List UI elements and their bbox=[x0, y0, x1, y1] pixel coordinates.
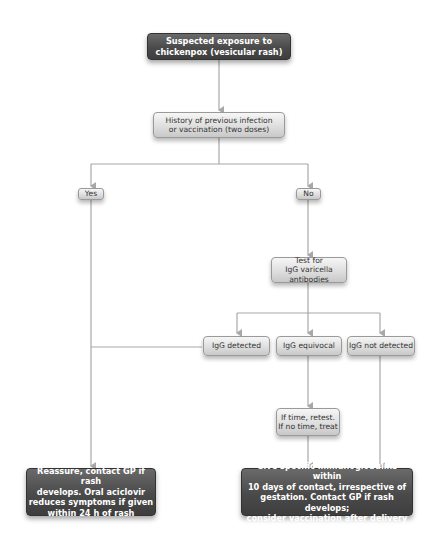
node-label: IgG equivocal bbox=[283, 341, 335, 351]
node-label: History of previous infection or vaccina… bbox=[165, 116, 272, 135]
node-label: Yes bbox=[85, 189, 97, 199]
node-label: IgG detected bbox=[212, 341, 261, 351]
node-label: No bbox=[303, 189, 313, 199]
node-label: Suspected exposure to chickenpox (vesicu… bbox=[156, 36, 283, 57]
node-igg-not-detected: IgG not detected bbox=[347, 336, 415, 356]
node-igg-detected: IgG detected bbox=[203, 336, 270, 356]
node-retest: If time, retest. If no time, treat bbox=[276, 408, 340, 436]
node-no: No bbox=[296, 188, 321, 200]
node-reassure: Reassure, contact GP if rash develops. O… bbox=[26, 468, 156, 516]
node-suspected-exposure: Suspected exposure to chickenpox (vesicu… bbox=[147, 33, 291, 60]
node-label: IgG not detected bbox=[349, 341, 413, 351]
node-label: Test for IgG varicella antibodies bbox=[272, 256, 346, 285]
node-yes: Yes bbox=[78, 188, 104, 200]
node-label: Reassure, contact GP if rash develops. O… bbox=[27, 466, 155, 519]
node-label: Give specific immunoglobulins within 10 … bbox=[242, 461, 412, 524]
node-give-immunoglobulins: Give specific immunoglobulins within 10 … bbox=[241, 468, 413, 516]
node-label: If time, retest. If no time, treat bbox=[278, 413, 337, 432]
node-history: History of previous infection or vaccina… bbox=[153, 112, 285, 138]
node-igg-equivocal: IgG equivocal bbox=[276, 336, 342, 356]
node-test-igg: Test for IgG varicella antibodies bbox=[271, 257, 347, 283]
